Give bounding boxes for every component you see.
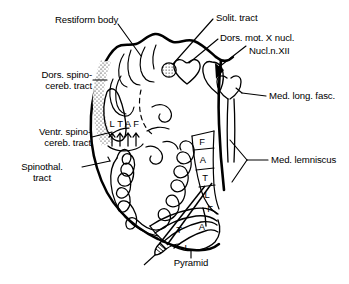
- dorsal-spinocerebellar-tract-band: [93, 60, 113, 146]
- lamination-medial-lemniscus-T: T: [199, 173, 211, 182]
- label-dorsal-spinocerebellar-tract-line2: cereb. tract: [0, 80, 92, 91]
- label-dorsal-spinocerebellar-tract-line1: Dors. spino-: [0, 69, 92, 80]
- label-dorsal-motor-x-nucleus: Dors. mot. X nucl.: [220, 32, 294, 43]
- label-restiform-body: Restiform body: [55, 14, 118, 25]
- lamination-pyramid-A: A: [196, 222, 208, 231]
- label-spinothalamic-tract-line2: tract: [6, 172, 78, 183]
- label-ventral-spinocerebellar-tract-line1: Ventr. spino-: [0, 126, 91, 137]
- lamination-pyramid-T: T: [173, 225, 185, 234]
- label-pyramid: Pyramid: [163, 257, 219, 268]
- label-ventral-spinocerebellar-tract-line2: cereb. tract: [0, 137, 91, 148]
- lamination-pyramid-F: F: [204, 204, 216, 213]
- label-spinothalamic-tract-line1: Spinothal.: [6, 161, 78, 172]
- dorsal-motor-vagus-nucleus: [174, 60, 200, 84]
- label-spinothalamic-tract: Spinothal. tract: [6, 161, 78, 183]
- label-ventral-spinocerebellar-tract: Ventr. spino- cereb. tract: [0, 126, 91, 148]
- label-medial-longitudinal-fasciculus: Med. long. fasc.: [269, 90, 335, 101]
- label-dorsal-spinocerebellar-tract: Dors. spino- cereb. tract: [0, 69, 92, 91]
- inferior-olivary-nucleus: [111, 141, 194, 236]
- lamination-spinothalamic-F: F: [130, 119, 142, 128]
- lamination-medial-lemniscus-L: L: [201, 190, 213, 199]
- reticular-formation-arcs: [147, 105, 171, 131]
- label-hypoglossal-nucleus: Nucl.n.XII: [249, 45, 290, 56]
- label-solitary-tract: Solit. tract: [216, 12, 257, 23]
- lamination-medial-lemniscus-F: F: [196, 137, 208, 146]
- lamination-medial-lemniscus-A: A: [197, 155, 209, 164]
- label-medial-lemniscus: Med. lemniscus: [271, 154, 336, 165]
- lamination-pyramid-L: L: [181, 243, 193, 252]
